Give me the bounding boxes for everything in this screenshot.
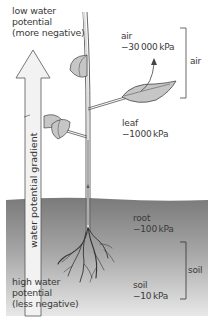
root-point-label: root −100 kPa [133,213,174,235]
air-point-name: air [121,31,174,42]
root-point-name: root [133,213,174,224]
low-potential-line3: (more negative) [12,27,85,38]
high-potential-line2: potential [12,287,78,298]
air-bracket-label: air [190,56,201,67]
high-potential-line3: (less negative) [12,298,78,309]
leaf-right-petiole [88,96,128,110]
high-potential-line1: high water [12,276,78,287]
gradient-arrow-label: water potential gradient [28,133,39,248]
low-potential-label: low water potential (more negative) [12,5,85,38]
soil-point-label: soil −10 kPa [133,280,168,302]
air-point-value: −30 000 kPa [121,42,174,53]
leaf-left-2 [52,119,70,139]
leaf-top [70,55,87,77]
air-point-label: air −30 000 kPa [121,31,174,53]
leaf-point-value: −1000 kPa [122,129,168,140]
leaf-right [122,81,176,102]
low-potential-line2: potential [12,16,85,27]
low-potential-line1: low water [12,5,85,16]
water-potential-diagram: low water potential (more negative) high… [0,0,212,323]
soil-point-value: −10 kPa [133,291,168,302]
air-bracket [180,28,186,98]
soil-point-name: soil [133,280,168,291]
root-point-value: −100 kPa [133,224,174,235]
leaf-point-name: leaf [122,118,168,129]
leaf-point-label: leaf −1000 kPa [122,118,168,140]
high-potential-label: high water potential (less negative) [12,276,78,309]
soil-bracket-label: soil [188,265,202,276]
